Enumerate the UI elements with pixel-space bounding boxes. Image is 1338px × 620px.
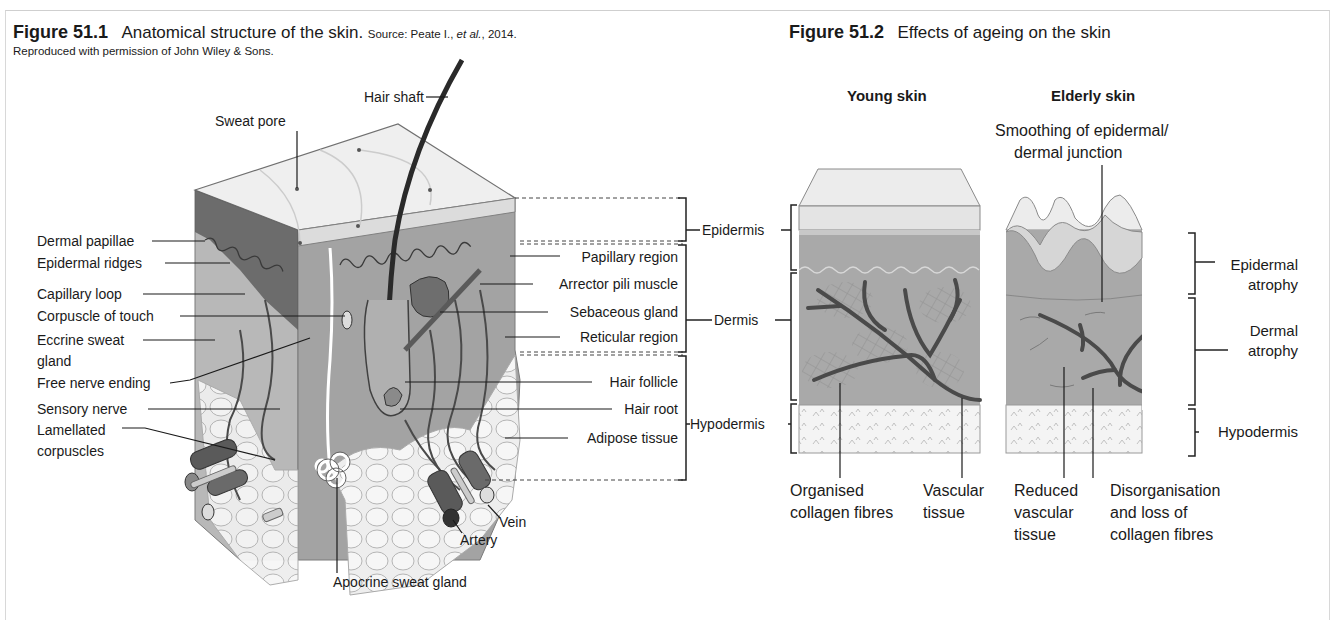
label-hypodermis-elderly: Hypodermis bbox=[1218, 421, 1298, 443]
label-reduced-1: Reduced bbox=[1014, 480, 1078, 502]
label-epidermal-atrophy-2: atrophy bbox=[1248, 274, 1298, 296]
label-organised-1: Organised bbox=[790, 480, 864, 502]
label-disorg-1: Disorganisation bbox=[1110, 480, 1220, 502]
label-dermal-atrophy-2: atrophy bbox=[1248, 340, 1298, 362]
label-epidermal-atrophy-1: Epidermal bbox=[1230, 254, 1298, 276]
label-vascular-2: tissue bbox=[923, 502, 965, 524]
label-reduced-3: tissue bbox=[1014, 524, 1056, 546]
label-reduced-2: vascular bbox=[1014, 502, 1074, 524]
label-disorg-2: and loss of bbox=[1110, 502, 1187, 524]
label-dermal-atrophy-1: Dermal bbox=[1250, 320, 1298, 342]
label-organised-2: collagen fibres bbox=[790, 502, 893, 524]
label-disorg-3: collagen fibres bbox=[1110, 524, 1213, 546]
label-vascular-1: Vascular bbox=[923, 480, 984, 502]
elderly-skin-heading: Elderly skin bbox=[1051, 87, 1135, 104]
young-skin-heading: Young skin bbox=[847, 87, 927, 104]
label-smoothing-line1: Smoothing of epidermal/ bbox=[995, 120, 1168, 142]
label-smoothing-line2: dermal junction bbox=[1014, 142, 1123, 164]
